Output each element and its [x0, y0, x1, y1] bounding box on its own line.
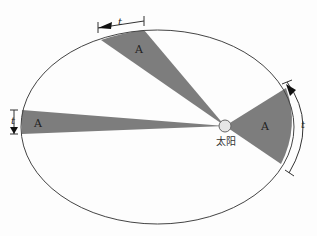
- sun-icon: [219, 120, 231, 132]
- arrow-down-icon: [10, 127, 18, 134]
- area-label-right: A: [260, 120, 270, 133]
- time-label-top: t: [118, 16, 123, 27]
- sector-top: [101, 30, 225, 126]
- time-label-left: t: [11, 115, 16, 126]
- kepler-orbit-diagram: 太阳 A A A t t t: [0, 0, 317, 236]
- area-label-left: A: [33, 117, 43, 130]
- arrow-left-icon: [98, 22, 112, 29]
- time-label-right: t: [301, 119, 306, 130]
- area-label-top: A: [134, 43, 144, 56]
- diagram-svg: 太阳 A A A t t t: [0, 0, 317, 236]
- sector-right: [225, 88, 292, 164]
- sun-label: 太阳: [216, 135, 236, 147]
- sector-left: [22, 110, 226, 134]
